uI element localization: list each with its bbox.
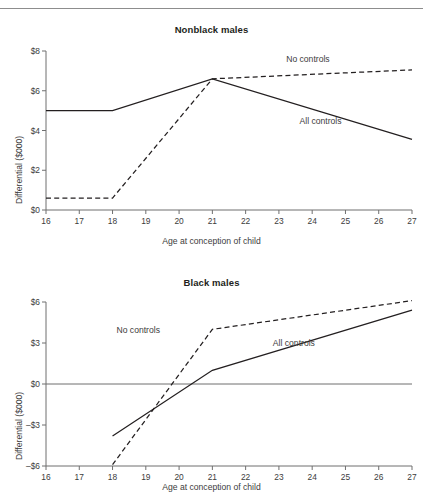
plot-area-nonblack-males <box>0 14 423 264</box>
x-tick-label: 23 <box>265 216 293 226</box>
series-label-all-controls: All controls <box>273 338 315 348</box>
x-axis-title-bottom: Age at conception of child <box>0 482 423 492</box>
x-tick-label: 27 <box>398 216 423 226</box>
x-tick-label: 21 <box>198 472 226 482</box>
y-tick-label: $4 <box>12 126 40 136</box>
y-tick-label: –$6 <box>12 461 40 471</box>
chart-panel-nonblack-males: Nonblack males Age at conception of chil… <box>0 14 423 264</box>
x-tick-label: 19 <box>132 472 160 482</box>
series-label-no-controls: No controls <box>286 54 329 64</box>
header-divider <box>0 8 423 9</box>
x-tick-label: 26 <box>365 216 393 226</box>
x-tick-label: 16 <box>32 472 60 482</box>
x-tick-label: 18 <box>99 472 127 482</box>
x-tick-label: 17 <box>65 216 93 226</box>
x-tick-label: 20 <box>165 216 193 226</box>
x-tick-label: 25 <box>331 472 359 482</box>
x-tick-label: 16 <box>32 216 60 226</box>
x-tick-label: 25 <box>331 216 359 226</box>
x-tick-label: 24 <box>298 472 326 482</box>
x-tick-label: 20 <box>165 472 193 482</box>
x-tick-label: 27 <box>398 472 423 482</box>
x-tick-label: 18 <box>99 216 127 226</box>
series-label-no-controls: No controls <box>116 325 159 335</box>
series-label-all-controls: All controls <box>299 116 341 126</box>
y-tick-label: $2 <box>12 165 40 175</box>
x-axis-title-top: Age at conception of child <box>0 236 423 246</box>
y-tick-label: $0 <box>12 379 40 389</box>
x-tick-label: 22 <box>232 472 260 482</box>
y-tick-label: $3 <box>12 338 40 348</box>
y-tick-label: $6 <box>12 297 40 307</box>
x-tick-label: 23 <box>265 472 293 482</box>
chart-panel-black-males: Black males Age at conception of child D… <box>0 264 423 500</box>
y-tick-label: $8 <box>12 46 40 56</box>
x-tick-label: 24 <box>298 216 326 226</box>
x-tick-label: 21 <box>198 216 226 226</box>
x-tick-label: 26 <box>365 472 393 482</box>
x-tick-label: 17 <box>65 472 93 482</box>
y-tick-label: –$3 <box>12 420 40 430</box>
plot-area-black-males <box>0 264 423 500</box>
y-tick-label: $6 <box>12 86 40 96</box>
x-tick-label: 19 <box>132 216 160 226</box>
y-tick-label: $0 <box>12 205 40 215</box>
x-tick-label: 22 <box>232 216 260 226</box>
